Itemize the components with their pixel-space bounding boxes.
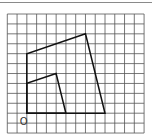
origin-label: O — [20, 117, 28, 127]
grid-lines — [7, 14, 144, 133]
